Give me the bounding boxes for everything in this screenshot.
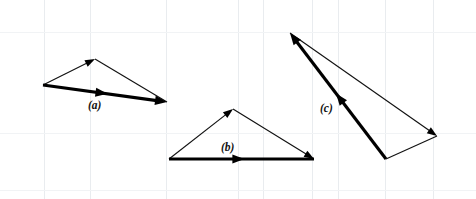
vector-figure: (a) (b) (c)	[0, 0, 476, 199]
vector-label-b: (b)	[221, 141, 235, 154]
vector-label-a: (a)	[88, 99, 102, 112]
figure-canvas: (a) (b) (c)	[0, 0, 476, 199]
vector-label-c: (c)	[320, 102, 333, 115]
